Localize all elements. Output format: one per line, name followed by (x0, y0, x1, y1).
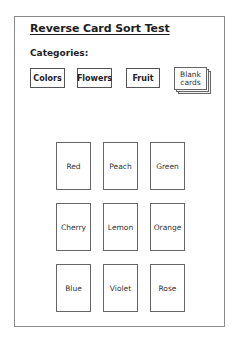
card-lemon[interactable]: Lemon (103, 203, 138, 251)
card-green[interactable]: Green (150, 142, 185, 190)
category-label: Flowers (77, 74, 112, 83)
card-peach[interactable]: Peach (103, 142, 138, 190)
card-red[interactable]: Red (56, 142, 91, 190)
category-fruit[interactable]: Fruit (126, 68, 160, 88)
category-label: Fruit (132, 74, 153, 83)
card-label: Lemon (108, 223, 133, 232)
card-grid: Red Peach Green Cherry Lemon Orange Blue… (56, 142, 185, 312)
card-rose[interactable]: Rose (150, 264, 185, 312)
category-colors[interactable]: Colors (30, 68, 65, 88)
card-label: Violet (110, 284, 131, 293)
card-label: Green (156, 162, 179, 171)
card-label: Orange (154, 223, 182, 232)
category-flowers[interactable]: Flowers (77, 68, 112, 88)
blank-cards-label-line2: cards (180, 78, 200, 87)
blank-cards-stack[interactable]: Blankcards (174, 67, 212, 95)
card-label: Rose (159, 284, 177, 293)
card-cherry[interactable]: Cherry (56, 203, 91, 251)
page-title: Reverse Card Sort Test (30, 22, 170, 35)
card-label: Red (66, 162, 80, 171)
card-label: Cherry (61, 223, 86, 232)
card-blue[interactable]: Blue (56, 264, 91, 312)
category-label: Colors (33, 74, 61, 83)
card-violet[interactable]: Violet (103, 264, 138, 312)
card-label: Peach (109, 162, 131, 171)
card-label: Blue (65, 284, 82, 293)
card-sort-frame: Reverse Card Sort Test Categories: Color… (14, 16, 225, 327)
card-orange[interactable]: Orange (150, 203, 185, 251)
blank-card-top: Blankcards (174, 67, 207, 90)
categories-heading: Categories: (30, 48, 88, 58)
